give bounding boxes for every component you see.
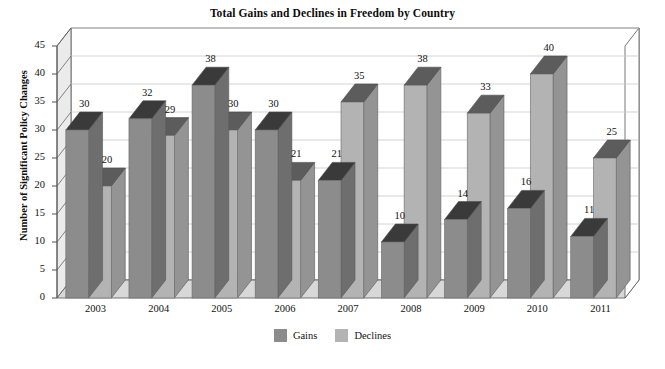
legend-label: Gains [293, 330, 318, 341]
bar-value-label: 20 [87, 154, 127, 165]
legend-swatch-icon [335, 329, 348, 342]
bar-value-label: 40 [529, 42, 569, 53]
legend-swatch-icon [274, 329, 287, 342]
x-tick-label: 2010 [507, 303, 567, 314]
bar-value-label: 30 [254, 98, 294, 109]
bar-value-label: 11 [569, 204, 609, 215]
x-tick-label: 2006 [255, 303, 315, 314]
y-tick-label: 30 [19, 123, 45, 134]
bar-value-label: 32 [127, 87, 167, 98]
bar-value-label: 30 [213, 98, 253, 109]
y-tick-label: 35 [19, 95, 45, 106]
chart-container: Total Gains and Declines in Freedom by C… [0, 0, 665, 369]
x-tick-label: 2011 [570, 303, 630, 314]
x-tick-label: 2003 [66, 303, 126, 314]
legend-item-declines[interactable]: Declines [335, 329, 391, 342]
bar-value-label: 16 [506, 176, 546, 187]
x-tick-label: 2007 [318, 303, 378, 314]
y-tick-label: 45 [19, 39, 45, 50]
legend-label: Declines [354, 330, 391, 341]
y-tick-label: 0 [19, 291, 45, 302]
y-tick-label: 10 [19, 235, 45, 246]
bar-value-label: 14 [443, 188, 483, 199]
bar-value-label: 29 [150, 104, 190, 115]
chart-legend: GainsDeclines [0, 329, 665, 342]
x-tick-label: 2005 [192, 303, 252, 314]
bar-value-label: 10 [380, 210, 420, 221]
y-tick-label: 5 [19, 263, 45, 274]
bar-value-label: 33 [466, 81, 506, 92]
bar-value-label: 30 [64, 98, 104, 109]
y-tick-label: 15 [19, 207, 45, 218]
bar-value-label: 38 [190, 53, 230, 64]
x-tick-label: 2008 [381, 303, 441, 314]
bar-value-label: 21 [317, 148, 357, 159]
y-tick-label: 40 [19, 67, 45, 78]
x-tick-label: 2004 [129, 303, 189, 314]
y-tick-label: 20 [19, 179, 45, 190]
legend-item-gains[interactable]: Gains [274, 329, 318, 342]
bar-value-label: 25 [592, 126, 632, 137]
bar-value-label: 21 [276, 148, 316, 159]
x-tick-label: 2009 [444, 303, 504, 314]
bar-value-label: 35 [339, 70, 379, 81]
y-tick-label: 25 [19, 151, 45, 162]
bar-value-label: 38 [402, 53, 442, 64]
